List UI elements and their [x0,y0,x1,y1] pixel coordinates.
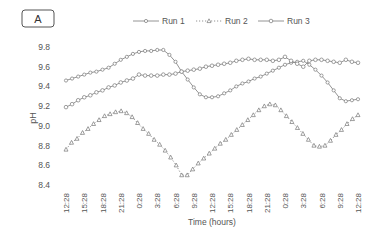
y-tick-label: 9.8 [38,42,50,52]
legend-item-run-3: Run 3 [258,16,310,26]
x-tick-label: 12:28 [208,192,217,213]
legend: Run 1Run 2Run 3 [133,16,310,26]
x-tick-label: 3:28 [153,192,162,208]
chart: A Run 1Run 2Run 3 8.48.68.89.09.29.49.69… [0,0,383,238]
x-tick-label: 0:28 [135,192,144,208]
x-tick-label: 18:28 [99,192,108,213]
x-tick-label: 12:28 [354,192,363,213]
legend-item-run-1: Run 1 [133,16,185,26]
x-tick-label: 9:28 [190,192,199,208]
panel-label-box: A [22,10,54,27]
x-axis-label: Time (hours) [188,217,236,227]
x-tick-label: 6:28 [318,192,327,208]
y-tick-label: 9.6 [38,62,50,72]
legend-label: Run 2 [225,16,248,26]
y-tick-label: 8.6 [38,160,50,170]
x-tick-label: 15:28 [80,192,89,213]
x-tick-label: 6:28 [172,192,181,208]
y-tick-label: 8.4 [38,180,50,190]
x-tick-label: 9:28 [336,192,345,208]
legend-label: Run 3 [287,16,310,26]
y-tick-label: 9.4 [38,81,50,91]
x-tick-label: 0:28 [281,192,290,208]
series-run-1 [64,48,359,102]
y-axis: 8.48.68.89.09.29.49.69.8 [38,42,50,190]
x-axis: 12:2815:2818:2821:280:283:286:289:2812:2… [62,192,363,213]
panel-label: A [34,13,42,25]
series-run-2 [64,102,360,177]
y-axis-label: pH [28,112,38,124]
y-tick-label: 9.0 [38,121,50,131]
legend-label: Run 1 [162,16,185,26]
x-tick-label: 21:28 [263,192,272,213]
plot-area [64,48,360,176]
x-tick-label: 21:28 [117,192,126,213]
x-tick-label: 15:28 [226,192,235,213]
y-tick-label: 8.8 [38,141,50,151]
legend-item-run-2: Run 2 [196,16,248,26]
x-tick-label: 3:28 [299,192,308,208]
x-tick-label: 18:28 [245,192,254,213]
y-tick-label: 9.2 [38,101,50,111]
x-tick-label: 12:28 [62,192,71,213]
series-run-3 [64,55,360,109]
